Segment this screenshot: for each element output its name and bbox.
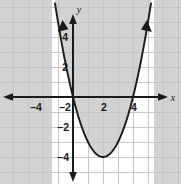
y-axis-label: y	[76, 4, 82, 15]
coordinate-graph-figure: –4 –2 2 4 4 2 –2 –4 x y	[0, 0, 181, 184]
graph-svg: –4 –2 2 4 4 2 –2 –4 x y	[0, 0, 181, 184]
y-tick-label-neg2: –2	[57, 121, 69, 133]
x-tick-label-pos2: 2	[101, 101, 107, 113]
y-tick-label-neg4: –4	[57, 151, 69, 163]
y-tick-label-pos4: 4	[62, 31, 68, 43]
x-tick-label-neg2: –2	[59, 101, 71, 113]
x-tick-label-neg4: –4	[30, 101, 42, 113]
x-axis-label: x	[170, 92, 176, 103]
y-tick-label-pos2: 2	[62, 61, 68, 73]
x-tick-label-pos4: 4	[131, 101, 137, 113]
